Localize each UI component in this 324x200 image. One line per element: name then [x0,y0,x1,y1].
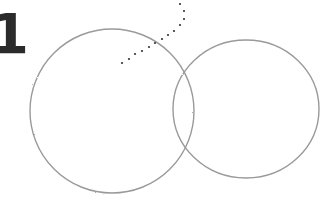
dot [121,62,123,64]
right-circle [173,40,319,178]
dot [128,58,130,60]
dot [148,46,150,48]
dot [173,30,175,32]
dot [154,42,156,44]
left-circle [30,29,194,193]
dot [167,34,169,36]
dot [141,50,143,52]
circles-group [30,29,319,193]
dot [161,38,163,40]
dot [183,18,185,20]
dot [134,53,136,55]
dot [183,10,185,12]
dot [179,24,181,26]
dot [179,3,181,5]
dotted-line [121,3,185,64]
venn-diagram [0,0,324,200]
